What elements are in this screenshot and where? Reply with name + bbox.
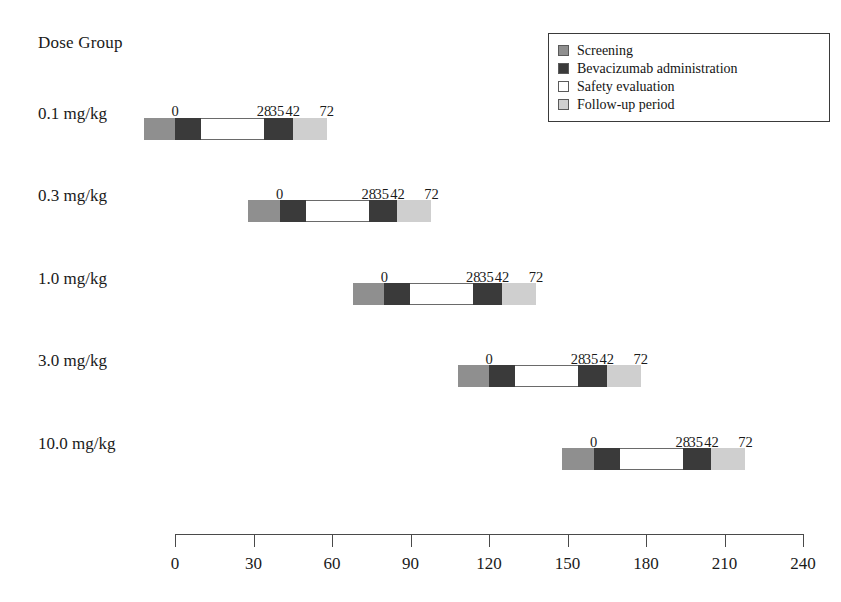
day-marker-label: 0 <box>276 186 283 203</box>
day-marker-label: 0 <box>485 351 492 368</box>
timeline-segment-safety <box>410 283 473 305</box>
timeline-segment-bev <box>280 200 306 222</box>
timeline-segment-bev <box>578 365 607 387</box>
row-label-1-0-mg-kg: 1.0 mg/kg <box>38 269 107 289</box>
timeline-segment-safety <box>201 118 264 140</box>
timeline-bar[interactable] <box>144 118 327 140</box>
x-axis-tick <box>646 534 647 547</box>
x-axis-tick-label: 240 <box>790 554 816 574</box>
legend-item-label: Follow-up period <box>577 97 675 113</box>
dose-group-timeline-chart: Dose Group ScreeningBevacizumab administ… <box>0 0 841 602</box>
timeline-segment-followup <box>711 448 745 470</box>
timeline-segment-bev <box>264 118 293 140</box>
x-axis-tick <box>489 534 490 547</box>
legend-item-label: Screening <box>577 43 633 59</box>
timeline-segment-screening <box>144 118 175 140</box>
day-marker-label: 72 <box>738 434 753 451</box>
day-marker-label: 42 <box>286 103 301 120</box>
day-marker-label: 72 <box>320 103 335 120</box>
timeline-segment-followup <box>502 283 536 305</box>
row-label-0-1-mg-kg: 0.1 mg/kg <box>38 104 107 124</box>
x-axis-tick-label: 210 <box>712 554 738 574</box>
timeline-segment-screening <box>248 200 279 222</box>
x-axis-tick <box>332 534 333 547</box>
chart-axis-title: Dose Group <box>38 33 123 53</box>
legend-swatch-safety-icon <box>558 81 569 92</box>
x-axis-tick <box>725 534 726 547</box>
row-label-0-3-mg-kg: 0.3 mg/kg <box>38 186 107 206</box>
day-marker-label: 35 <box>479 269 494 286</box>
timeline-bar[interactable] <box>353 283 536 305</box>
x-axis-tick-label: 0 <box>171 554 180 574</box>
timeline-segment-safety <box>620 448 683 470</box>
row-label-3-0-mg-kg: 3.0 mg/kg <box>38 351 107 371</box>
day-marker-label: 0 <box>381 269 388 286</box>
timeline-segment-bev <box>384 283 410 305</box>
legend-item-safety[interactable]: Safety evaluation <box>558 78 817 95</box>
legend-item-label: Safety evaluation <box>577 79 675 95</box>
x-axis-tick <box>568 534 569 547</box>
x-axis-tick-label: 30 <box>245 554 262 574</box>
timeline-segment-screening <box>562 448 593 470</box>
legend-swatch-bev-icon <box>558 63 569 74</box>
timeline-segment-screening <box>458 365 489 387</box>
day-marker-label: 72 <box>529 269 544 286</box>
legend-swatch-followup-icon <box>558 99 569 110</box>
timeline-segment-followup <box>397 200 431 222</box>
day-marker-label: 35 <box>374 186 389 203</box>
day-marker-label: 42 <box>704 434 719 451</box>
timeline-segment-bev <box>683 448 712 470</box>
day-marker-label: 0 <box>590 434 597 451</box>
legend-item-screening[interactable]: Screening <box>558 42 817 59</box>
x-axis-tick <box>254 534 255 547</box>
timeline-segment-bev <box>594 448 620 470</box>
timeline-bar[interactable] <box>562 448 745 470</box>
timeline-segment-bev <box>175 118 201 140</box>
day-marker-label: 72 <box>634 351 649 368</box>
x-axis-tick-label: 60 <box>324 554 341 574</box>
legend-item-bev[interactable]: Bevacizumab administration <box>558 60 817 77</box>
timeline-segment-followup <box>293 118 327 140</box>
x-axis-tick-label: 90 <box>402 554 419 574</box>
row-label-10-0-mg-kg: 10.0 mg/kg <box>38 434 115 454</box>
x-axis-tick-label: 180 <box>633 554 659 574</box>
legend-item-label: Bevacizumab administration <box>577 61 738 77</box>
timeline-segment-bev <box>369 200 398 222</box>
timeline-segment-followup <box>607 365 641 387</box>
timeline-bar[interactable] <box>458 365 641 387</box>
day-marker-label: 72 <box>424 186 439 203</box>
x-axis-tick <box>175 534 176 547</box>
timeline-segment-bev <box>473 283 502 305</box>
x-axis-tick <box>803 534 804 547</box>
timeline-segment-safety <box>515 365 578 387</box>
day-marker-label: 0 <box>171 103 178 120</box>
timeline-segment-screening <box>353 283 384 305</box>
legend-item-followup[interactable]: Follow-up period <box>558 96 817 113</box>
day-marker-label: 35 <box>688 434 703 451</box>
day-marker-label: 35 <box>270 103 285 120</box>
day-marker-label: 42 <box>600 351 615 368</box>
timeline-bar[interactable] <box>248 200 431 222</box>
day-marker-label: 35 <box>584 351 599 368</box>
x-axis-tick-label: 150 <box>555 554 581 574</box>
timeline-segment-bev <box>489 365 515 387</box>
x-axis-tick <box>411 534 412 547</box>
timeline-segment-safety <box>306 200 369 222</box>
chart-legend: ScreeningBevacizumab administrationSafet… <box>548 33 830 122</box>
x-axis-tick-label: 120 <box>476 554 502 574</box>
day-marker-label: 42 <box>495 269 510 286</box>
day-marker-label: 42 <box>390 186 405 203</box>
legend-swatch-screening-icon <box>558 45 569 56</box>
